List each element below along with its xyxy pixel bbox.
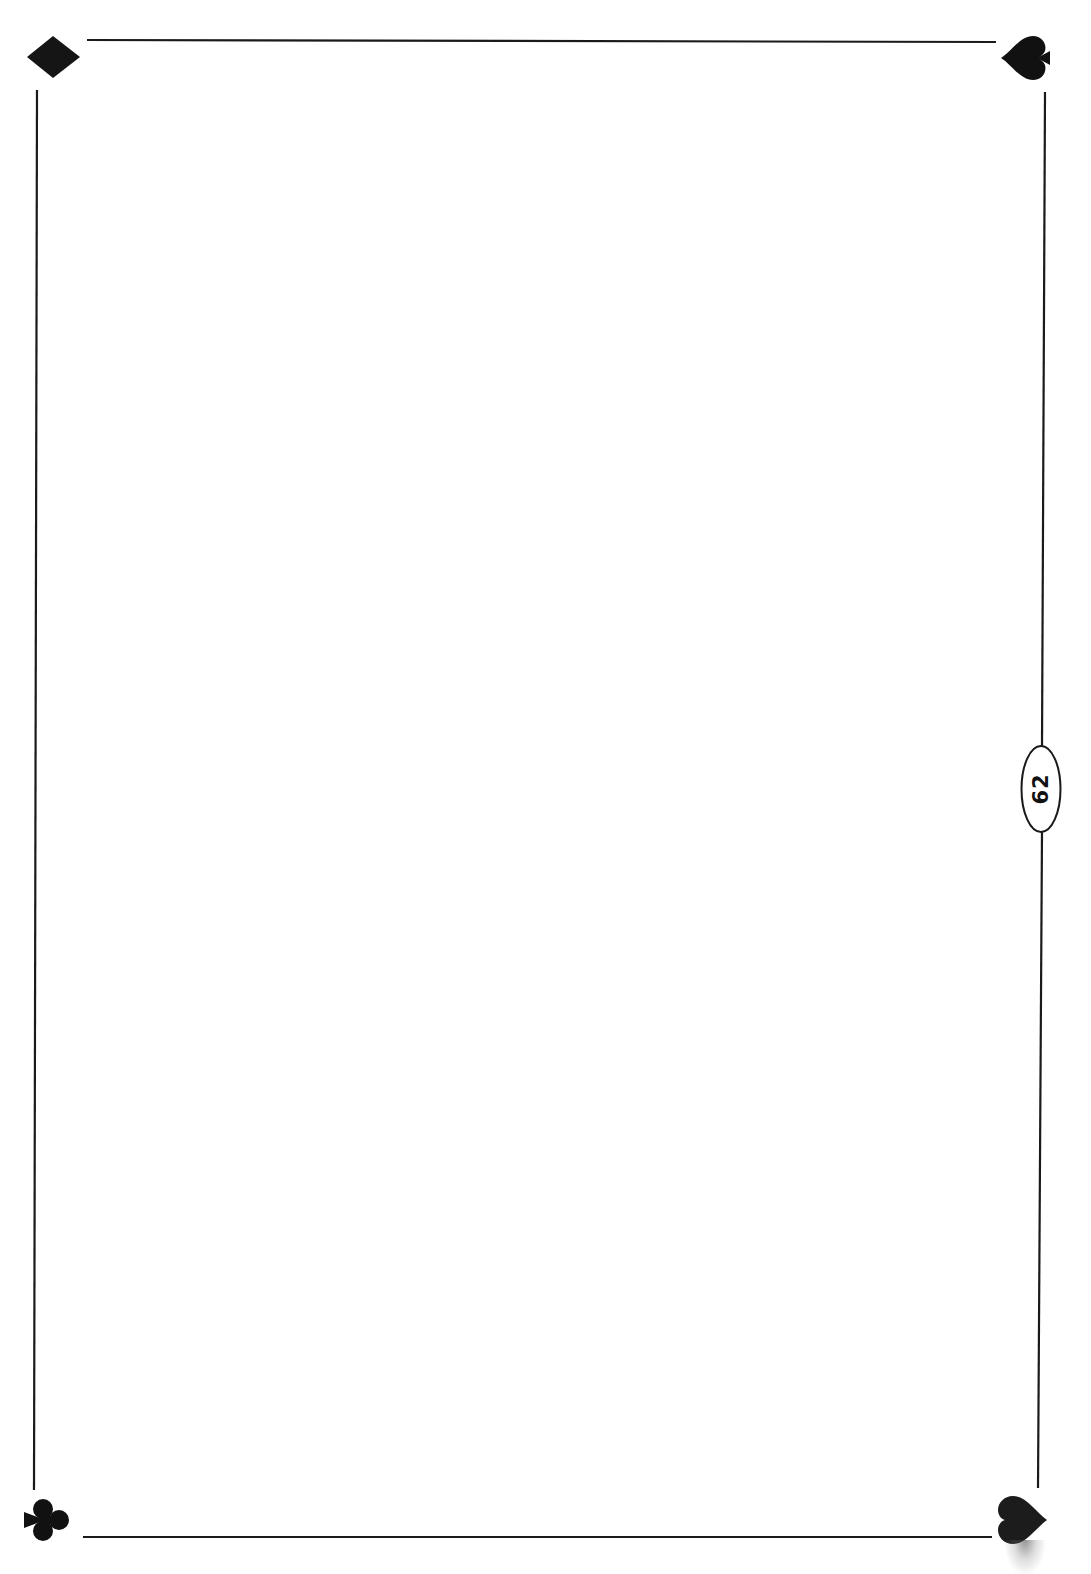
left-border-line [34,90,37,1490]
right-border-line-upper [1042,92,1045,746]
page: 62 [0,0,1091,1574]
card-frame [0,0,1091,1574]
page-number: 62 [1021,746,1061,832]
club-icon [24,1499,69,1541]
heart-icon [998,1496,1047,1544]
right-border-line-lower [1038,832,1042,1488]
page-number-text: 62 [1029,773,1053,804]
top-border-line [87,40,996,42]
spade-icon [1001,36,1050,80]
scan-shadow [1005,1540,1045,1574]
diamond-icon [27,36,80,78]
